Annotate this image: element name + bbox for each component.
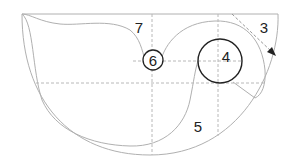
label-region-4: 4 <box>222 49 230 64</box>
label-region-3: 3 <box>260 20 268 35</box>
connector-line <box>233 82 255 98</box>
label-region-6: 6 <box>149 53 157 68</box>
outer-boundary <box>22 14 278 155</box>
right-arc-curve <box>161 21 265 98</box>
label-region-7: 7 <box>135 20 143 35</box>
left-inner-edge <box>22 14 198 146</box>
diagram-canvas <box>0 0 296 167</box>
left-lobe-curve <box>22 14 145 60</box>
label-region-5: 5 <box>194 119 202 134</box>
